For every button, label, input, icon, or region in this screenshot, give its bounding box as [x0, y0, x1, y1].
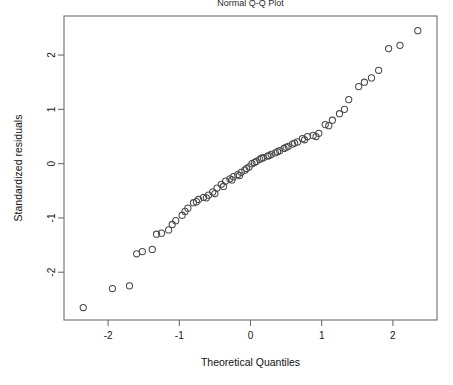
- data-point: [386, 45, 392, 51]
- x-tick-label: 1: [319, 330, 325, 341]
- x-tick-label: 0: [248, 330, 254, 341]
- y-tick-label: 2: [47, 52, 58, 58]
- data-point: [376, 67, 382, 73]
- qq-plot-figure: Normal Q-Q Plot-2-1012-2-1012Theoretical…: [0, 0, 453, 385]
- data-point: [274, 149, 280, 155]
- chart-title: Normal Q-Q Plot: [217, 0, 284, 8]
- data-point: [368, 75, 374, 81]
- data-point: [283, 144, 289, 150]
- data-point: [173, 218, 179, 224]
- data-point: [326, 123, 332, 129]
- plot-frame: [64, 16, 437, 320]
- chart-canvas: Normal Q-Q Plot-2-1012-2-1012Theoretical…: [0, 0, 453, 385]
- data-point: [126, 283, 132, 289]
- y-tick-label: -1: [47, 213, 58, 222]
- data-point: [149, 246, 155, 252]
- data-point: [397, 42, 403, 48]
- x-tick-label: -1: [175, 330, 184, 341]
- data-point-group: [80, 28, 421, 311]
- data-point: [346, 97, 352, 103]
- y-tick-label: 1: [47, 106, 58, 112]
- data-point: [415, 28, 421, 34]
- x-tick-label: -2: [104, 330, 113, 341]
- x-axis-title: Theoretical Quantiles: [201, 356, 300, 368]
- y-axis-title: Standardized residuals: [12, 115, 24, 222]
- data-point: [134, 251, 140, 257]
- data-point: [80, 304, 86, 310]
- data-point: [169, 221, 175, 227]
- data-point: [109, 285, 115, 291]
- data-point: [361, 79, 367, 85]
- x-tick-label: 2: [390, 330, 396, 341]
- y-tick-label: 0: [47, 160, 58, 166]
- data-point: [356, 83, 362, 89]
- y-tick-label: -2: [47, 267, 58, 276]
- data-point: [341, 106, 347, 112]
